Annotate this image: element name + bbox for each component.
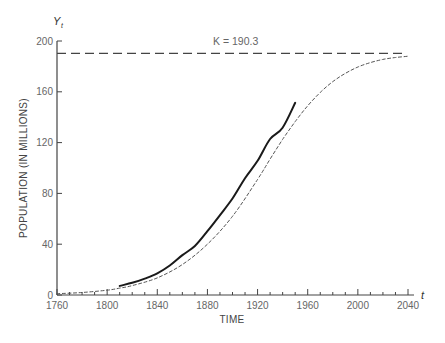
- k-annotation-label: K = 190.3: [213, 35, 258, 47]
- y-tick-label: 120: [36, 137, 53, 148]
- y-axis-variable-subscript: t: [61, 22, 64, 29]
- x-tick-label: 2000: [347, 300, 370, 311]
- x-tick-label: 1920: [246, 300, 269, 311]
- y-tick-label: 160: [36, 86, 53, 97]
- axis-ticks: 0408012016020017601800184018801920196020…: [36, 36, 419, 312]
- x-tick-label: 1800: [96, 300, 119, 311]
- y-tick-label: 40: [42, 239, 54, 250]
- logistic-fit-curve: [57, 56, 408, 294]
- y-tick-label: 80: [42, 188, 54, 199]
- series-lines: [57, 53, 408, 293]
- axes: [57, 41, 414, 295]
- x-axis-variable: t: [421, 289, 425, 301]
- y-axis-variable: Y: [53, 15, 61, 27]
- y-axis-title: POPULATION (IN MILLIONS): [18, 98, 29, 238]
- x-tick-label: 1960: [297, 300, 320, 311]
- observed-population-curve: [120, 103, 296, 286]
- logistic-population-chart: 0408012016020017601800184018801920196020…: [0, 0, 445, 343]
- x-tick-label: 1840: [146, 300, 169, 311]
- x-tick-label: 1760: [46, 300, 69, 311]
- x-axis-title: TIME: [219, 314, 244, 325]
- y-tick-label: 200: [36, 36, 53, 47]
- x-tick-label: 2040: [397, 300, 420, 311]
- y-tick-label: 0: [47, 290, 53, 301]
- x-tick-label: 1880: [196, 300, 219, 311]
